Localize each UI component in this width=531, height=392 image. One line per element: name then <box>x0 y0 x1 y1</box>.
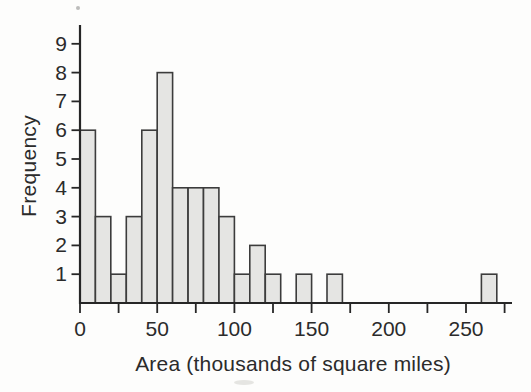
histogram-figure: 123456789050100150200250 Frequency Area … <box>0 0 531 392</box>
x-tick-label-200: 200 <box>371 317 406 340</box>
y-tick-label-1: 1 <box>55 262 67 285</box>
histogram-bar-140-150 <box>296 274 311 303</box>
y-tick-label-9: 9 <box>55 32 67 55</box>
y-tick-label-6: 6 <box>55 118 67 141</box>
histogram-bar-160-170 <box>327 274 342 303</box>
y-tick-label-7: 7 <box>55 89 67 112</box>
y-tick-label-2: 2 <box>55 233 67 256</box>
histogram-bar-260-270 <box>481 274 496 303</box>
x-tick-label-0: 0 <box>74 317 86 340</box>
histogram-bar-120-130 <box>265 274 280 303</box>
scan-speck-artifact <box>76 6 80 10</box>
histogram-bar-40-50 <box>142 130 157 303</box>
y-tick-label-5: 5 <box>55 147 67 170</box>
x-tick-label-50: 50 <box>146 317 169 340</box>
histogram-bar-50-60 <box>157 73 172 303</box>
x-tick-label-250: 250 <box>448 317 483 340</box>
histogram-bar-100-110 <box>234 274 249 303</box>
histogram-plot: 123456789050100150200250 <box>0 0 531 392</box>
histogram-bar-110-120 <box>250 245 265 303</box>
histogram-bar-80-90 <box>204 188 219 303</box>
histogram-bar-90-100 <box>219 217 234 303</box>
y-tick-label-8: 8 <box>55 61 67 84</box>
scan-smudge-artifact <box>234 380 254 385</box>
histogram-bar-0-10 <box>80 130 95 303</box>
histogram-bar-10-20 <box>95 217 110 303</box>
y-axis-title: Frequency <box>17 115 41 217</box>
y-tick-label-3: 3 <box>55 205 67 228</box>
histogram-bar-70-80 <box>188 188 203 303</box>
histogram-bar-20-30 <box>111 274 126 303</box>
x-tick-label-100: 100 <box>217 317 252 340</box>
x-axis-title: Area (thousands of square miles) <box>135 352 451 376</box>
y-tick-label-4: 4 <box>55 176 67 199</box>
histogram-bar-30-40 <box>126 217 141 303</box>
x-tick-label-150: 150 <box>294 317 329 340</box>
histogram-bar-60-70 <box>173 188 188 303</box>
